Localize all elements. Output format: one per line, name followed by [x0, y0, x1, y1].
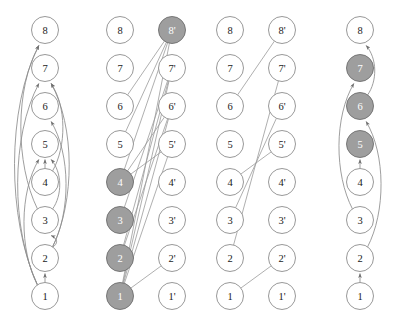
node-circle — [107, 17, 134, 44]
node-circle — [32, 283, 59, 310]
graph-node-7-prime[interactable]: 7' — [269, 55, 296, 82]
graph-node-5[interactable]: 5 — [347, 131, 374, 158]
graph-node-1[interactable]: 1 — [32, 283, 59, 310]
graph-node-5[interactable]: 5 — [107, 131, 134, 158]
graph-node-5-prime[interactable]: 5' — [159, 131, 186, 158]
node-circle — [269, 207, 296, 234]
graph-node-3[interactable]: 3 — [32, 207, 59, 234]
node-circle — [217, 245, 244, 272]
graph-node-1-prime[interactable]: 1' — [159, 283, 186, 310]
figure-root: 87654321876543218'7'6'5'4'3'2'1'87654321… — [0, 0, 397, 318]
node-circle — [269, 93, 296, 120]
graph-node-1[interactable]: 1 — [217, 283, 244, 310]
node-circle — [107, 55, 134, 82]
graph-node-8[interactable]: 8 — [32, 17, 59, 44]
graph-node-7-prime[interactable]: 7' — [159, 55, 186, 82]
node-circle — [217, 17, 244, 44]
graph-node-8-prime[interactable]: 8' — [159, 17, 186, 44]
graph-node-3-prime[interactable]: 3' — [159, 207, 186, 234]
node-circle — [269, 283, 296, 310]
graph-node-7[interactable]: 7 — [107, 55, 134, 82]
node-circle — [217, 93, 244, 120]
node-circle — [347, 207, 374, 234]
node-circle — [269, 55, 296, 82]
graph-node-3[interactable]: 3 — [217, 207, 244, 234]
node-circle — [159, 55, 186, 82]
node-circle — [159, 169, 186, 196]
node-circle — [159, 17, 186, 44]
node-circle — [107, 131, 134, 158]
node-circle — [159, 245, 186, 272]
graph-node-1-prime[interactable]: 1' — [269, 283, 296, 310]
node-circle — [269, 131, 296, 158]
graph-canvas: 87654321876543218'7'6'5'4'3'2'1'87654321… — [0, 0, 397, 318]
node-circle — [32, 131, 59, 158]
node-circle — [159, 283, 186, 310]
graph-node-3[interactable]: 3 — [107, 207, 134, 234]
node-circle — [347, 131, 374, 158]
node-circle — [217, 169, 244, 196]
graph-node-7[interactable]: 7 — [347, 55, 374, 82]
bipartite-edge — [241, 152, 271, 174]
graph-node-8[interactable]: 8 — [347, 17, 374, 44]
node-circle — [107, 169, 134, 196]
graph-node-4-prime[interactable]: 4' — [269, 169, 296, 196]
node-circle — [32, 169, 59, 196]
graph-node-2[interactable]: 2 — [217, 245, 244, 272]
node-circle — [347, 93, 374, 120]
graph-node-1[interactable]: 1 — [347, 283, 374, 310]
node-circle — [217, 283, 244, 310]
graph-node-6-prime[interactable]: 6' — [159, 93, 186, 120]
graph-node-8[interactable]: 8 — [107, 17, 134, 44]
graph-node-2-prime[interactable]: 2' — [269, 245, 296, 272]
graph-node-4-prime[interactable]: 4' — [159, 169, 186, 196]
bipartite-edge — [131, 266, 161, 288]
graph-node-6[interactable]: 6 — [32, 93, 59, 120]
graph-node-4[interactable]: 4 — [107, 169, 134, 196]
node-circle — [159, 207, 186, 234]
node-circle — [347, 17, 374, 44]
node-circle — [217, 207, 244, 234]
graph-node-3-prime[interactable]: 3' — [269, 207, 296, 234]
graph-node-1[interactable]: 1 — [107, 283, 134, 310]
graph-node-2[interactable]: 2 — [107, 245, 134, 272]
graph-node-5-prime[interactable]: 5' — [269, 131, 296, 158]
graph-node-6[interactable]: 6 — [107, 93, 134, 120]
node-circle — [347, 283, 374, 310]
node-circle — [107, 93, 134, 120]
graph-node-7[interactable]: 7 — [217, 55, 244, 82]
node-circle — [107, 283, 134, 310]
graph-node-2-prime[interactable]: 2' — [159, 245, 186, 272]
node-circle — [107, 207, 134, 234]
graph-node-6-prime[interactable]: 6' — [269, 93, 296, 120]
node-circle — [269, 245, 296, 272]
graph-node-8[interactable]: 8 — [217, 17, 244, 44]
node-circle — [32, 93, 59, 120]
graph-node-3[interactable]: 3 — [347, 207, 374, 234]
graph-node-4[interactable]: 4 — [32, 169, 59, 196]
graph-node-7[interactable]: 7 — [32, 55, 59, 82]
node-circle — [32, 207, 59, 234]
node-circle — [269, 17, 296, 44]
node-circle — [159, 93, 186, 120]
graph-node-6[interactable]: 6 — [217, 93, 244, 120]
node-circle — [347, 169, 374, 196]
node-circle — [347, 245, 374, 272]
graph-node-4[interactable]: 4 — [217, 169, 244, 196]
node-circle — [217, 131, 244, 158]
node-circle — [107, 245, 134, 272]
graph-node-6[interactable]: 6 — [347, 93, 374, 120]
graph-node-4[interactable]: 4 — [347, 169, 374, 196]
nodes-layer: 87654321876543218'7'6'5'4'3'2'1'87654321… — [32, 17, 374, 310]
graph-node-5[interactable]: 5 — [217, 131, 244, 158]
node-circle — [269, 169, 296, 196]
node-circle — [32, 55, 59, 82]
edges-layer — [15, 41, 382, 288]
graph-node-8-prime[interactable]: 8' — [269, 17, 296, 44]
graph-node-2[interactable]: 2 — [347, 245, 374, 272]
graph-node-2[interactable]: 2 — [32, 245, 59, 272]
node-circle — [32, 17, 59, 44]
graph-node-5[interactable]: 5 — [32, 131, 59, 158]
node-circle — [347, 55, 374, 82]
bipartite-edge — [241, 266, 271, 288]
